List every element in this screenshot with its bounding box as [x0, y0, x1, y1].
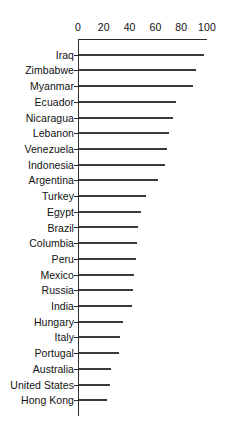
y-tick-mark — [74, 400, 78, 401]
x-tick-label: 0 — [75, 21, 81, 33]
y-tick-mark — [74, 118, 78, 119]
horizontal-bar-chart: 020406080100 IraqZimbabweMyanmarEcuadorN… — [0, 0, 230, 423]
bar-row — [78, 345, 207, 361]
bar — [79, 242, 137, 244]
bar — [79, 101, 176, 103]
bar-row — [78, 78, 207, 94]
bar-row — [78, 204, 207, 220]
bar-row — [78, 235, 207, 251]
bar — [79, 289, 133, 291]
bar-row — [78, 361, 207, 377]
bar — [79, 336, 120, 338]
y-tick-mark — [74, 70, 78, 71]
bar-row — [78, 282, 207, 298]
plot-area — [78, 39, 207, 416]
y-tick-mark — [74, 306, 78, 307]
y-tick-label: Indonesia — [0, 159, 74, 171]
y-tick-label: Turkey — [0, 190, 74, 202]
bar-row — [78, 141, 207, 157]
y-tick-label: Iraq — [0, 49, 74, 61]
bar-row — [78, 47, 207, 63]
y-tick-label: Venezuela — [0, 143, 74, 155]
y-tick-label: Lebanon — [0, 127, 74, 139]
y-tick-mark — [74, 212, 78, 213]
bar-row — [78, 298, 207, 314]
bar-row — [78, 188, 207, 204]
y-tick-mark — [74, 196, 78, 197]
y-tick-label: Ecuador — [0, 96, 74, 108]
y-tick-mark — [74, 55, 78, 56]
bar — [79, 305, 132, 307]
bar — [79, 321, 123, 323]
bar-row — [78, 392, 207, 408]
bar-row — [78, 94, 207, 110]
y-tick-label: Columbia — [0, 237, 74, 249]
y-tick-mark — [74, 227, 78, 228]
bar-row — [78, 157, 207, 173]
bar — [79, 211, 141, 213]
bar — [79, 117, 173, 119]
bar — [79, 85, 193, 87]
bar-row — [78, 63, 207, 79]
y-tick-label: Zimbabwe — [0, 64, 74, 76]
y-tick-mark — [74, 322, 78, 323]
y-tick-mark — [74, 243, 78, 244]
y-tick-label: Hungary — [0, 316, 74, 328]
bar-row — [78, 330, 207, 346]
bar — [79, 54, 204, 56]
bar-row — [78, 220, 207, 236]
y-tick-mark — [74, 275, 78, 276]
y-tick-mark — [74, 385, 78, 386]
bar — [79, 179, 158, 181]
bar — [79, 274, 134, 276]
y-tick-mark — [74, 259, 78, 260]
x-axis-tick-labels: 020406080100 — [0, 21, 230, 35]
y-tick-mark — [74, 86, 78, 87]
bar — [79, 226, 138, 228]
bar-row — [78, 267, 207, 283]
y-tick-label: Mexico — [0, 269, 74, 281]
y-tick-mark — [74, 149, 78, 150]
bar-row — [78, 173, 207, 189]
bar — [79, 164, 165, 166]
bar-row — [78, 110, 207, 126]
y-tick-label: Italy — [0, 331, 74, 343]
y-tick-label: Argentina — [0, 174, 74, 186]
y-tick-mark — [74, 102, 78, 103]
y-tick-mark — [74, 369, 78, 370]
y-tick-label: Hong Kong — [0, 394, 74, 406]
bar — [79, 148, 167, 150]
y-tick-mark — [74, 353, 78, 354]
y-tick-label: Egypt — [0, 206, 74, 218]
y-tick-label: Nicaragua — [0, 112, 74, 124]
bar — [79, 258, 136, 260]
y-tick-mark — [74, 133, 78, 134]
x-tick-label: 60 — [149, 21, 161, 33]
y-tick-mark — [74, 180, 78, 181]
x-tick-label: 100 — [198, 21, 216, 33]
y-tick-label: Peru — [0, 253, 74, 265]
bar-row — [78, 251, 207, 267]
y-tick-label: United States — [0, 379, 74, 391]
y-tick-mark — [74, 290, 78, 291]
y-tick-label: Brazil — [0, 222, 74, 234]
bar-row — [78, 125, 207, 141]
bar — [79, 195, 146, 197]
y-tick-label: Australia — [0, 363, 74, 375]
y-tick-mark — [74, 165, 78, 166]
bar — [79, 69, 196, 71]
y-tick-label: India — [0, 300, 74, 312]
bar-row — [78, 314, 207, 330]
y-axis-category-labels: IraqZimbabweMyanmarEcuadorNicaraguaLeban… — [0, 39, 74, 416]
y-tick-label: Portugal — [0, 347, 74, 359]
x-tick-label: 80 — [175, 21, 187, 33]
bar — [79, 368, 111, 370]
bar — [79, 384, 110, 386]
x-tick-label: 20 — [98, 21, 110, 33]
y-tick-label: Myanmar — [0, 80, 74, 92]
bar — [79, 352, 119, 354]
bar-row — [78, 377, 207, 393]
bar — [79, 132, 169, 134]
y-tick-mark — [74, 337, 78, 338]
y-tick-label: Russia — [0, 284, 74, 296]
